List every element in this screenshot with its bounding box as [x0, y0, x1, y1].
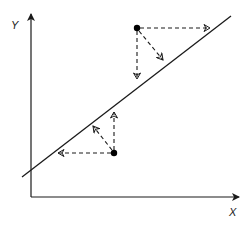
regression-diagram: Y X	[0, 0, 252, 228]
x-axis-label: X	[228, 206, 237, 218]
upper-data-point	[134, 25, 140, 31]
lower-point-group	[58, 112, 117, 156]
upper-perpendicular-arrow	[139, 31, 163, 60]
upper-point-group	[134, 25, 210, 79]
regression-line	[22, 16, 231, 177]
y-axis-label: Y	[11, 19, 19, 31]
lower-data-point	[111, 150, 117, 156]
lower-perpendicular-arrow	[93, 126, 112, 150]
